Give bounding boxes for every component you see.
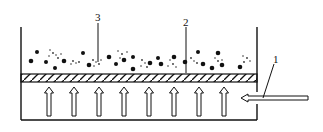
arrow-up-icon: [45, 87, 54, 116]
fluidized-bed-diagram: 3 2 1: [0, 0, 323, 132]
arrow-up-icon: [95, 87, 104, 116]
distributor-plate: [21, 74, 257, 82]
arrow-up-icon: [120, 87, 129, 116]
arrow-left-icon: [241, 94, 308, 102]
label-3: 3: [95, 11, 101, 23]
arrow-up-icon: [70, 87, 79, 116]
arrow-up-icon: [170, 87, 179, 116]
upward-air-arrows: [45, 87, 229, 116]
particle-bed: [29, 50, 243, 71]
inlet-arrow: [241, 94, 308, 102]
arrow-up-icon: [220, 87, 229, 116]
arrow-up-icon: [145, 87, 154, 116]
leader-line-1: [263, 64, 274, 98]
label-1: 1: [273, 53, 279, 65]
label-2: 2: [183, 16, 189, 28]
arrow-up-icon: [195, 87, 204, 116]
